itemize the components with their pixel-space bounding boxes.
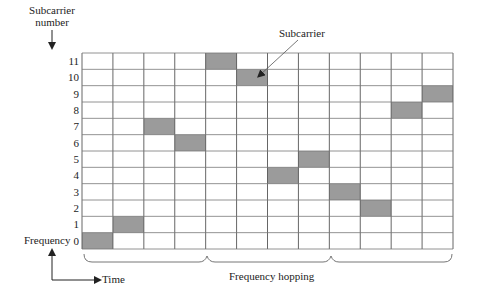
hop-cell — [175, 135, 206, 151]
axis-lines — [52, 254, 96, 280]
frequency-arrow-icon — [48, 248, 56, 256]
hop-cell — [113, 216, 144, 232]
frequency-hopping-brace — [84, 254, 452, 262]
hop-cell — [360, 200, 391, 216]
time-arrow-icon — [94, 276, 102, 284]
hop-cell — [206, 53, 237, 69]
hop-cell — [391, 102, 422, 118]
time-frequency-grid — [0, 0, 478, 301]
hop-cell — [422, 86, 453, 102]
hop-cell — [298, 151, 329, 167]
hop-cell — [82, 233, 113, 249]
subcarrier-callout-arrow — [260, 40, 298, 75]
hop-cell — [144, 118, 175, 134]
hop-cell — [268, 167, 299, 183]
hop-cell — [329, 184, 360, 200]
hop-cell — [237, 69, 268, 85]
